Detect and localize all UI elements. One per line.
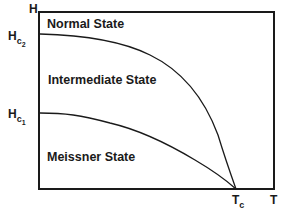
hc2-curve [40, 34, 236, 189]
y-axis-label: H [29, 3, 38, 15]
intermediate-state-label: Intermediate State [48, 74, 156, 87]
hc1-tick-label: Hc1 [8, 108, 26, 126]
meissner-state-label: Meissner State [47, 151, 135, 164]
tc-tick-label: Tc [232, 194, 244, 210]
phase-diagram [0, 0, 291, 218]
hc2-tick-label: Hc2 [8, 30, 26, 48]
x-axis-label: T [270, 194, 277, 206]
normal-state-label: Normal State [47, 18, 124, 31]
